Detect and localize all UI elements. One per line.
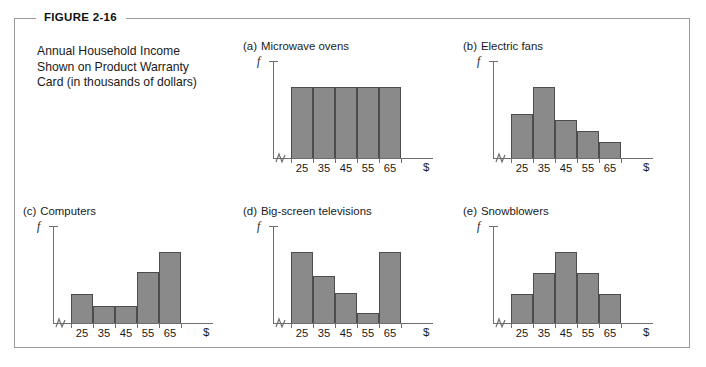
panel-index: (e) xyxy=(463,205,477,217)
x-axis-tick-label: 55 xyxy=(357,162,379,176)
chart-panel-snowblowers: (e)Snowblowers f 2535455565 $ xyxy=(463,205,673,345)
plot-area: f 2535455565 $ xyxy=(471,223,667,341)
panel-label: Electric fans xyxy=(481,40,543,52)
x-axis-unit-label: $ xyxy=(203,326,209,338)
panel-index: (c) xyxy=(23,205,36,217)
bar-series xyxy=(511,241,621,323)
axis-break-icon xyxy=(275,315,289,329)
x-axis-tick-label: 55 xyxy=(357,327,379,341)
chart-panel-electric-fans: (b)Electric fans f 2535455565 $ xyxy=(463,40,673,180)
bar xyxy=(313,87,335,158)
bar-series xyxy=(291,76,401,158)
chart-panel-big-screen-televisions: (d)Big-screen televisions f 2535455565 $ xyxy=(243,205,453,345)
bar xyxy=(533,273,555,323)
bar xyxy=(71,294,93,323)
x-axis-tick xyxy=(621,158,622,163)
bar xyxy=(291,87,313,158)
figure-number-label: FIGURE 2-16 xyxy=(36,10,126,24)
bar xyxy=(577,131,599,158)
x-axis-tick-label: 55 xyxy=(577,162,599,176)
bar xyxy=(533,87,555,158)
plot-area: f 2535455565 $ xyxy=(251,223,447,341)
x-axis-tick-label: 45 xyxy=(115,327,137,341)
y-axis-line xyxy=(273,62,274,158)
y-axis-label: f xyxy=(37,220,40,232)
x-axis-unit-label: $ xyxy=(643,161,649,173)
panel-title: (c)Computers xyxy=(23,205,96,217)
panel-label: Computers xyxy=(40,205,96,217)
x-axis-tick-label: 35 xyxy=(313,162,335,176)
y-axis-line xyxy=(273,227,274,323)
x-axis-tick-label: 55 xyxy=(137,327,159,341)
x-axis-tick-labels: 2535455565 xyxy=(71,327,181,341)
chart-panel-computers: (c)Computers f 2535455565 $ xyxy=(23,205,233,345)
x-axis-tick-label: 35 xyxy=(93,327,115,341)
x-axis-tick xyxy=(401,323,402,328)
bar-series xyxy=(511,76,621,158)
y-axis-label: f xyxy=(257,55,260,67)
bar xyxy=(379,252,401,323)
caption-line-2: Shown on Product Warranty xyxy=(37,60,247,76)
x-axis-unit-label: $ xyxy=(423,326,429,338)
bar xyxy=(599,294,621,323)
bar-series xyxy=(71,241,181,323)
bar xyxy=(511,294,533,323)
bar xyxy=(159,252,181,323)
panel-index: (b) xyxy=(463,40,477,52)
x-axis-tick-label: 65 xyxy=(599,162,621,176)
x-axis-tick-labels: 2535455565 xyxy=(291,162,401,176)
panel-label: Big-screen televisions xyxy=(261,205,372,217)
bar xyxy=(115,306,137,323)
x-axis-tick-labels: 2535455565 xyxy=(291,327,401,341)
bar xyxy=(379,87,401,158)
panel-title: (a)Microwave ovens xyxy=(243,40,349,52)
panel-title: (b)Electric fans xyxy=(463,40,543,52)
x-axis-tick-labels: 2535455565 xyxy=(511,327,621,341)
panel-title: (d)Big-screen televisions xyxy=(243,205,372,217)
x-axis-tick-label: 55 xyxy=(577,327,599,341)
x-axis-tick-label: 25 xyxy=(291,162,313,176)
y-axis-label: f xyxy=(477,220,480,232)
x-axis-tick-label: 35 xyxy=(533,327,555,341)
panel-title: (e)Snowblowers xyxy=(463,205,549,217)
y-axis-line xyxy=(493,62,494,158)
panel-label: Snowblowers xyxy=(481,205,549,217)
y-axis-line xyxy=(493,227,494,323)
x-axis-tick-labels: 2535455565 xyxy=(511,162,621,176)
x-axis-unit-label: $ xyxy=(643,326,649,338)
x-axis-tick xyxy=(621,323,622,328)
bar xyxy=(555,252,577,323)
axis-break-icon xyxy=(495,150,509,164)
bar xyxy=(335,87,357,158)
x-axis-tick xyxy=(181,323,182,328)
chart-panel-microwave-ovens: (a)Microwave ovens f 2535455565 $ xyxy=(243,40,453,180)
figure-caption: Annual Household Income Shown on Product… xyxy=(37,44,247,91)
bar xyxy=(599,142,621,158)
bar xyxy=(357,313,379,323)
x-axis-unit-label: $ xyxy=(423,161,429,173)
plot-area: f 2535455565 $ xyxy=(251,58,447,176)
x-axis-tick xyxy=(401,158,402,163)
axis-break-icon xyxy=(495,315,509,329)
axis-break-icon xyxy=(55,315,69,329)
y-axis-label: f xyxy=(477,55,480,67)
bar xyxy=(357,87,379,158)
x-axis-tick-label: 25 xyxy=(291,327,313,341)
bar xyxy=(577,273,599,323)
x-axis-tick-label: 65 xyxy=(159,327,181,341)
bar xyxy=(511,114,533,158)
y-axis-line xyxy=(53,227,54,323)
y-axis-label: f xyxy=(257,220,260,232)
bar xyxy=(93,306,115,323)
x-axis-tick-label: 35 xyxy=(313,327,335,341)
panel-index: (a) xyxy=(243,40,257,52)
x-axis-tick-label: 25 xyxy=(511,327,533,341)
bar xyxy=(335,293,357,323)
plot-area: f 2535455565 $ xyxy=(471,58,667,176)
caption-line-3: Card (in thousands of dollars) xyxy=(37,75,247,91)
x-axis-tick-label: 45 xyxy=(335,162,357,176)
bar xyxy=(313,276,335,323)
x-axis-tick-label: 65 xyxy=(599,327,621,341)
x-axis-tick-label: 65 xyxy=(379,162,401,176)
x-axis-tick-label: 65 xyxy=(379,327,401,341)
